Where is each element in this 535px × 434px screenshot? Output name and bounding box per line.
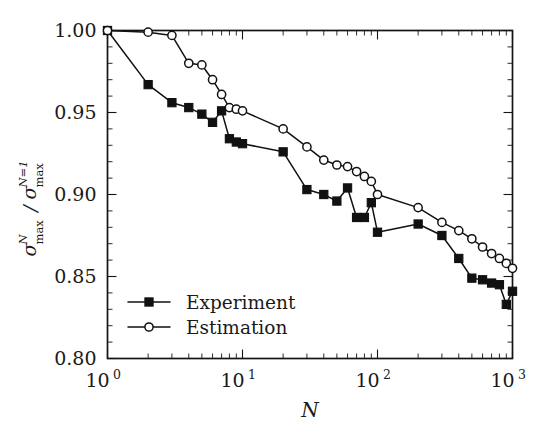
- data-point: [217, 107, 225, 115]
- plot-frame: [108, 31, 513, 359]
- data-point: [144, 81, 152, 89]
- data-point: [198, 61, 206, 69]
- data-point: [238, 140, 246, 148]
- data-point: [455, 254, 463, 262]
- data-point: [343, 163, 351, 171]
- legend-item: Experiment: [128, 292, 296, 313]
- data-point: [168, 99, 176, 107]
- data-point: [103, 26, 111, 34]
- data-point: [185, 59, 193, 67]
- data-point: [468, 274, 476, 282]
- data-point: [502, 300, 510, 308]
- data-point: [333, 161, 341, 169]
- y-tick-label: 1.00: [54, 19, 96, 41]
- x-tick-label-base: 10: [490, 369, 514, 391]
- y-axis-title-subscript: max: [32, 220, 46, 245]
- y-tick-label: 0.90: [54, 183, 96, 205]
- data-point: [352, 213, 360, 221]
- legend-label: Experiment: [186, 292, 296, 313]
- data-point: [352, 167, 360, 175]
- data-point: [508, 287, 516, 295]
- data-point: [478, 243, 486, 251]
- data-point: [414, 204, 422, 212]
- legend-item: Estimation: [128, 317, 287, 338]
- x-tick-label-exponent: 3: [518, 367, 526, 382]
- data-point: [455, 226, 463, 234]
- data-point: [438, 218, 446, 226]
- data-point: [217, 90, 225, 98]
- data-point: [185, 103, 193, 111]
- data-point: [168, 31, 176, 39]
- y-tick-label: 0.80: [54, 347, 96, 369]
- data-point: [373, 190, 381, 198]
- legend-marker: [145, 298, 153, 306]
- legend-label: Estimation: [186, 317, 287, 338]
- data-point: [279, 125, 287, 133]
- data-point: [303, 143, 311, 151]
- y-tick-label: 0.85: [54, 265, 96, 287]
- data-point: [367, 199, 375, 207]
- x-tick-label: 100: [85, 367, 121, 391]
- data-point: [360, 213, 368, 221]
- data-point: [487, 249, 495, 257]
- data-point: [343, 184, 351, 192]
- data-point: [495, 281, 503, 289]
- x-tick-label-base: 10: [85, 369, 109, 391]
- x-tick-label-exponent: 0: [113, 367, 121, 382]
- y-axis-title: σmaxN/σmaxN=1: [16, 160, 46, 256]
- chart-plot: 1.000.950.900.850.80100101102103NσmaxN/σ…: [0, 0, 535, 434]
- data-point: [279, 148, 287, 156]
- x-axis-title: N: [300, 398, 320, 422]
- x-tick-label-exponent: 2: [383, 367, 391, 382]
- series-line-experiment: [108, 31, 513, 305]
- series-estimation: [103, 26, 516, 272]
- x-tick-label-exponent: 1: [248, 367, 256, 382]
- data-point: [438, 231, 446, 239]
- x-tick-label-base: 10: [220, 369, 244, 391]
- data-point: [208, 76, 216, 84]
- data-point: [487, 279, 495, 287]
- data-point: [373, 228, 381, 236]
- data-point: [508, 264, 516, 272]
- y-axis-title-subscript: max: [32, 163, 46, 188]
- y-tick-label: 0.95: [54, 101, 96, 123]
- data-point: [198, 110, 206, 118]
- x-tick-label: 103: [490, 367, 526, 391]
- y-axis-title-superscript: N=1: [16, 160, 30, 188]
- x-tick-label-base: 10: [355, 369, 379, 391]
- data-point: [144, 28, 152, 36]
- data-point: [238, 107, 246, 115]
- y-axis-title-divider: /: [19, 204, 41, 214]
- y-axis-title-superscript: N: [16, 234, 30, 246]
- x-tick-label: 102: [355, 367, 391, 391]
- data-point: [208, 118, 216, 126]
- data-point: [333, 197, 341, 205]
- data-point: [320, 156, 328, 164]
- figure-container: 1.000.950.900.850.80100101102103NσmaxN/σ…: [0, 0, 535, 434]
- data-point: [303, 185, 311, 193]
- data-point: [367, 177, 375, 185]
- data-point: [478, 276, 486, 284]
- x-tick-label: 101: [220, 367, 256, 391]
- data-point: [468, 235, 476, 243]
- data-point: [414, 220, 422, 228]
- legend-marker: [145, 323, 153, 331]
- series-experiment: [103, 26, 516, 308]
- data-point: [320, 190, 328, 198]
